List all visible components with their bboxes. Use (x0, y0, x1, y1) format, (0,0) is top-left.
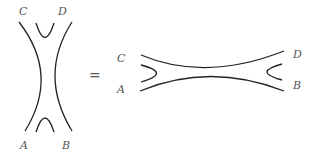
label-d-left: D (57, 5, 67, 18)
left-diagram: C D A B (19, 5, 72, 152)
equals-sign: = (89, 67, 101, 83)
label-b-left: B (61, 139, 70, 152)
label-c-left: C (19, 5, 28, 18)
label-a-right: A (116, 83, 125, 96)
right-strand-curve (55, 22, 72, 131)
top-cup-curve (36, 23, 54, 38)
label-a-left: A (19, 139, 28, 152)
right-cup-curve (267, 64, 282, 80)
left-cup-curve (141, 65, 157, 82)
bottom-strand-curve (140, 77, 284, 92)
diagram-canvas: C D A B = C A D B (0, 0, 317, 155)
label-b-right: B (292, 79, 301, 92)
top-strand-curve (141, 51, 284, 68)
label-d-right: D (292, 48, 302, 61)
bottom-cap-curve (36, 118, 54, 132)
left-strand-curve (19, 22, 41, 131)
label-c-right: C (117, 52, 126, 65)
right-diagram: C A D B (116, 48, 302, 96)
